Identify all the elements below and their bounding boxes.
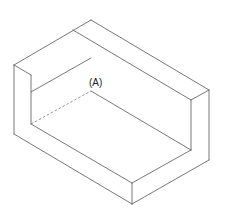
edge-wall-top-inner <box>73 30 191 100</box>
edge-front-top-right <box>132 150 191 183</box>
hidden-edge-floor-corner <box>31 91 91 124</box>
edge-floor-back <box>91 91 191 150</box>
edge-left-wall-top <box>14 65 31 75</box>
isometric-drawing: (A) <box>0 0 226 219</box>
edge-top-back-right <box>91 20 209 90</box>
edge-back-step <box>31 58 91 92</box>
edge-bottom-right <box>132 160 209 204</box>
label-a: (A) <box>89 77 102 88</box>
edge-top-back-left <box>14 20 91 65</box>
edge-bottom-left <box>14 134 132 204</box>
visible-edges <box>14 20 209 204</box>
edge-right-wall-top <box>191 90 209 100</box>
hidden-edges <box>31 91 91 124</box>
